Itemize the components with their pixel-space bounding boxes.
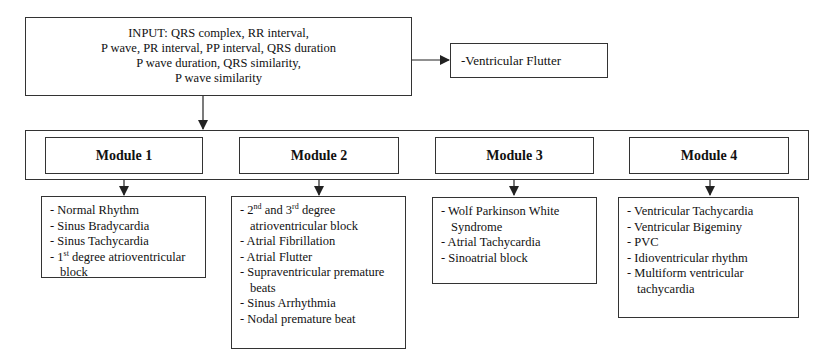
module-1-box: Module 1 xyxy=(45,137,203,174)
module-1-list: Normal Rhythm Sinus Bradycardia Sinus Ta… xyxy=(41,196,206,278)
input-line-4: P wave similarity xyxy=(26,71,411,86)
list-item: Multiform ventricular tachycardia xyxy=(627,266,792,297)
list-item: Sinus Bradycardia xyxy=(50,219,199,235)
input-line-3: P wave duration, QRS similarity, xyxy=(26,56,411,71)
list-item: Sinus Tachycardia xyxy=(50,234,199,250)
list-item: 1st degree atrioventricular block xyxy=(50,250,199,281)
list-item: Supraventricular premature beats xyxy=(240,265,399,296)
module-4-list: Ventricular Tachycardia Ventricular Bige… xyxy=(618,197,799,318)
module-4-box: Module 4 xyxy=(629,137,789,174)
list-item: Wolf Parkinson White Syndrome xyxy=(441,204,590,235)
list-item: Sinus Arrhythmia xyxy=(240,296,399,312)
list-item: Atrial Tachycardia xyxy=(441,235,590,251)
list-item: Ventricular Tachycardia xyxy=(627,204,792,220)
list-item: Atrial Flutter xyxy=(240,250,399,266)
module-2-list: 2nd and 3rd degree atrioventricular bloc… xyxy=(231,196,406,349)
module-3-box: Module 3 xyxy=(435,137,594,174)
list-item: Normal Rhythm xyxy=(50,203,199,219)
list-item: Nodal premature beat xyxy=(240,312,399,328)
input-line-2: P wave, PR interval, PP interval, QRS du… xyxy=(26,41,411,56)
module-3-list: Wolf Parkinson White Syndrome Atrial Tac… xyxy=(432,197,597,284)
ventricular-flutter-box: -Ventricular Flutter xyxy=(450,43,608,78)
list-item: Ventricular Bigeminy xyxy=(627,220,792,236)
input-features-box: INPUT: QRS complex, RR interval, P wave,… xyxy=(25,17,412,96)
module-2-box: Module 2 xyxy=(239,137,399,174)
input-line-1: INPUT: QRS complex, RR interval, xyxy=(26,26,411,41)
list-item: PVC xyxy=(627,235,792,251)
list-item: 2nd and 3rd degree atrioventricular bloc… xyxy=(240,203,399,234)
list-item: Sinoatrial block xyxy=(441,251,590,267)
list-item: Atrial Fibrillation xyxy=(240,234,399,250)
list-item: Idioventricular rhythm xyxy=(627,251,792,267)
